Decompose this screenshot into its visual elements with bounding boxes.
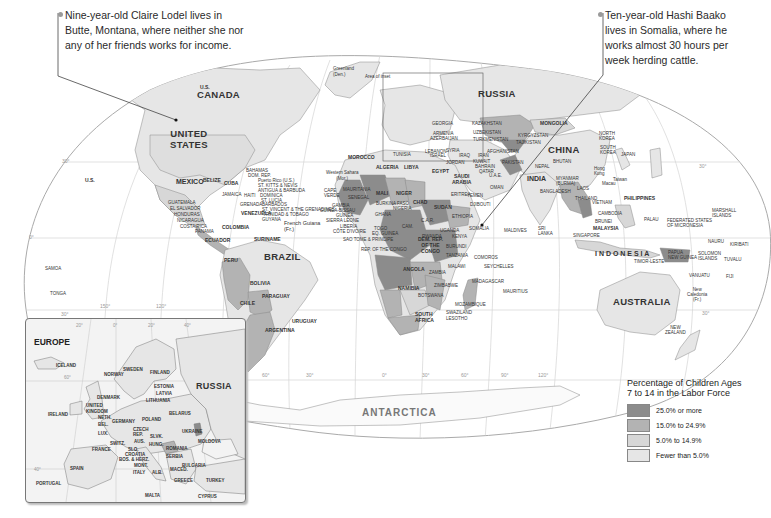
label-yemen: YEMEN (467, 193, 483, 198)
label-us-hawaii: U.S. (85, 177, 95, 183)
legend-item: Fewer than 5.0% (627, 448, 771, 463)
inset-label-bos: BOS. & HERZ. (119, 457, 149, 462)
label-niger: NIGER (396, 190, 412, 196)
inset-degree-label: 60° (64, 375, 71, 380)
inset-label-iceland: ICELAND (56, 363, 76, 368)
label-bangladesh: BANGLADESH (540, 189, 571, 194)
label-panama: PANAMA (195, 229, 214, 234)
label-nigeria: NIGERIA (393, 206, 412, 211)
label-somalia: SOMALIA (469, 226, 489, 231)
label-uzbekistan: UZBEKISTAN (473, 130, 501, 135)
label-madagascar: MADAGASCAR (472, 279, 504, 284)
label-canada: CANADA (197, 89, 240, 100)
inset-label-alb: ALB. (152, 470, 163, 475)
label-united-states: UNITED STATES (170, 128, 208, 150)
label-uae: U.A.E. (489, 173, 502, 178)
degree-label: 30° (62, 158, 70, 164)
inset-label-aus: AUS. (134, 439, 145, 444)
label-nepal: NEPAL (535, 164, 549, 169)
label-eq-guinea: EQ. GUINEA (372, 231, 398, 236)
label-chile: CHILE (240, 300, 255, 306)
label-colombia: COLOMBIA (222, 224, 249, 230)
label-fiji: FIJI (726, 274, 734, 279)
label-burundi: BURUNDI (446, 244, 467, 249)
label-saudi-arabia: SAUDI ARABIA (452, 173, 471, 185)
label-india: INDIA (527, 175, 546, 182)
label-french-guiana: French Guiana (Fr.) (284, 220, 320, 232)
label-mozambique: MOZAMBIQUE (455, 302, 486, 307)
callout-line: Ten-year-old Hashi Baako (605, 8, 755, 23)
label-zimbabwe: ZIMBABWE (434, 283, 458, 288)
label-marshall-islands: MARSHALL ISLANDS (712, 208, 736, 218)
label-bhutan: BHUTAN (553, 159, 571, 164)
inset-degree-label: 40° (184, 323, 191, 328)
label-azerbaijan: AZERBAIJAN (430, 136, 458, 141)
label-paraguay: PARAGUAY (262, 293, 290, 299)
legend-swatch-25-plus (627, 404, 650, 417)
legend-swatch-15-25 (627, 419, 650, 432)
inset-label-lithuania: LITHUANIA (146, 398, 170, 403)
legend-swatch-5-15 (627, 434, 650, 447)
degree-label: 30° (699, 163, 707, 169)
inset-label-ireland: IRELAND (48, 412, 68, 417)
label-brunei: BRUNEI (595, 219, 612, 224)
label-nauru: NAURU (708, 239, 724, 244)
inset-label-germany: GERMANY (112, 419, 135, 424)
label-us-alaska: U.S. (200, 84, 210, 90)
callout-line: lives in Somalia, where he (605, 23, 755, 38)
label-philippines: PHILIPPINES (624, 195, 655, 201)
label-singapore: SINGAPORE (573, 233, 600, 238)
legend-swatch-under-5 (627, 449, 650, 462)
inset-label-uk: UNITED KINGDOM (86, 403, 108, 415)
inset-label-ukraine: UKRAINE (182, 429, 203, 434)
label-venezuela: VENEZUELA (241, 210, 271, 216)
inset-label-czech: CZECH REP. (133, 427, 149, 437)
inset-degree-label: 20° (76, 323, 83, 328)
label-djibouti: DJIBOUTI (470, 202, 491, 207)
label-honduras: HONDURAS (174, 212, 200, 217)
inset-label-romania: ROMANIA (166, 446, 188, 451)
inset-degree-label: 0° (113, 323, 117, 328)
inset-label-turkey: TURKEY (206, 478, 225, 483)
label-georgia: GEORGIA (432, 121, 453, 126)
label-jamaica: JAMAICA (222, 192, 242, 197)
inset-label-italy: ITALY (133, 470, 145, 475)
label-mali: MALI (376, 190, 388, 196)
label-vanuatu: VANUATU (689, 273, 710, 278)
label-mongolia: MONGOLIA (540, 120, 568, 126)
label-cameroon: CAM. (402, 224, 413, 229)
inset-label-portugal: PORTUGAL (36, 481, 61, 486)
label-cote-divoire: CÔTE D'IVOIRE (333, 229, 366, 234)
label-israel: ISRAEL (430, 153, 446, 158)
label-tanzania: TANZANIA (446, 253, 468, 258)
label-samoa: SAMOA (45, 266, 61, 271)
label-pakistan: PAKISTAN (502, 160, 524, 165)
label-kyrgyzstan: KYRGYZSTAN (518, 133, 548, 138)
label-sao-tome: SAO TOME & PRINCIPE (343, 237, 393, 242)
label-south-africa: SOUTH AFRICA (415, 311, 434, 323)
label-maldives: MALDIVES (504, 228, 527, 233)
label-kenya: KENYA (452, 234, 467, 239)
inset-label-finland: FINLAND (150, 370, 170, 375)
label-comoros: COMOROS (474, 255, 498, 260)
label-morocco: MOROCCO (348, 154, 375, 160)
label-namibia: NAMIBIA (398, 285, 419, 291)
label-macau: Macau (602, 181, 616, 186)
degree-label: 30° (422, 372, 430, 378)
inset-label-hung: HUNG. (149, 442, 164, 447)
label-turkmenistan: TURKMENISTAN (473, 137, 508, 142)
label-sri-lanka: SRI LANKA (538, 226, 553, 236)
label-rep-congo: REP. OF THE CONGO (361, 247, 407, 252)
label-greenland: Greenland (Den.) (333, 66, 354, 78)
degree-label: 30° (61, 311, 69, 317)
label-antarctica: ANTARCTICA (362, 407, 437, 418)
degree-label: 30° (306, 372, 314, 378)
label-bolivia: BOLIVIA (250, 280, 270, 286)
degree-label: 30° (702, 310, 710, 316)
degree-label: 60° (461, 372, 469, 378)
label-syria: SYRIA (446, 148, 460, 153)
label-afghanistan: AFGHANISTAN (487, 149, 519, 154)
label-grenada: GRENADA (240, 202, 262, 207)
label-ecuador: ECUADOR (205, 237, 230, 243)
degree-label: 120° (156, 303, 166, 309)
